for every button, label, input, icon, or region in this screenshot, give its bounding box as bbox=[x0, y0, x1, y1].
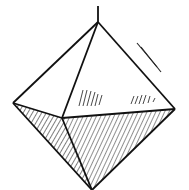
figure-stage bbox=[0, 0, 189, 190]
upper-face-hatching bbox=[79, 90, 155, 106]
parallel-marks bbox=[137, 43, 161, 72]
face-lower-front bbox=[62, 109, 175, 190]
octahedron-diagram bbox=[0, 0, 189, 190]
